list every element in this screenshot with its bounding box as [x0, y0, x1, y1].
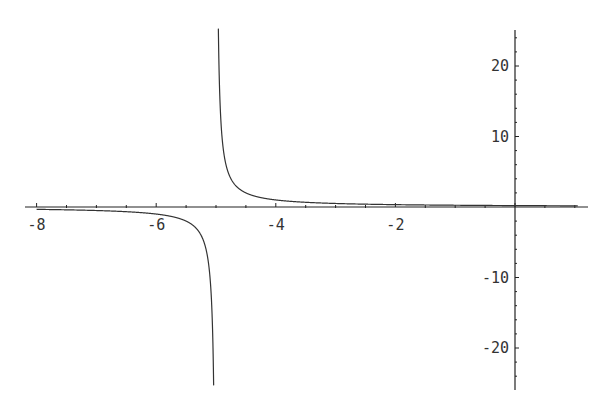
left-branch-curve — [37, 209, 214, 385]
y-tick-label: 10 — [491, 128, 509, 146]
axes — [25, 30, 588, 390]
x-tick-label: -2 — [386, 216, 404, 234]
x-tick-label: -8 — [28, 216, 46, 234]
y-tick-label: 20 — [491, 57, 509, 75]
y-tick-label: -20 — [482, 339, 509, 357]
x-tick-label: -4 — [267, 216, 285, 234]
x-tick-label: -6 — [147, 216, 165, 234]
plot-area: -8-6-4-22010-10-20 — [0, 0, 602, 408]
right-branch-curve — [218, 29, 577, 206]
y-tick-label: -10 — [482, 269, 509, 287]
